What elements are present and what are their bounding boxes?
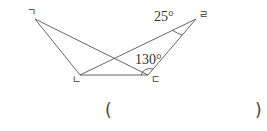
segment-giyeok-digeut xyxy=(35,19,148,75)
segment-giyeok-nieun xyxy=(35,19,80,75)
angle-arc-rieul xyxy=(172,30,182,35)
answer-close-paren: ) xyxy=(255,102,262,119)
vertex-label-nieun: ㄴ xyxy=(72,75,81,85)
angle-label-130: 130° xyxy=(135,53,162,67)
answer-open-paren: ( xyxy=(105,102,112,119)
angle-label-25: 25° xyxy=(154,10,174,24)
answer-blank[interactable] xyxy=(116,102,252,122)
vertex-label-rieul: ㄹ xyxy=(199,10,208,20)
geometry-figure: ㄱ ㄹ ㄴ ㄷ 25° 130° ( ) xyxy=(0,0,267,131)
vertex-label-digeut: ㄷ xyxy=(151,75,160,85)
vertex-label-giyeok: ㄱ xyxy=(27,8,36,18)
